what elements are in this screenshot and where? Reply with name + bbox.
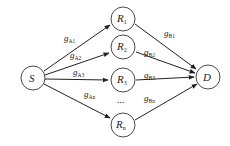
relay-network-diagram: gA1 gA2 gA3 gAn gB1 gB2 gB3 gBn S R1 R2 … [0, 0, 230, 146]
node-relay-1: R1 [111, 7, 135, 31]
edge-label-a2: gA2 [70, 50, 81, 61]
node-source: S [21, 66, 45, 90]
edge-label-b3: gB3 [144, 70, 155, 81]
node-destination: D [196, 65, 220, 89]
edge-label-a1: gA1 [64, 33, 75, 44]
edge-label-b2: gB2 [144, 47, 155, 58]
node-relay-3: R3 [111, 68, 135, 92]
relay-ellipsis: ... [117, 94, 125, 105]
node-relay-n: Rn [111, 113, 135, 137]
node-source-label: S [29, 72, 35, 84]
edge-label-a3: gA3 [73, 67, 84, 78]
edge-s-rn [44, 84, 110, 118]
edge-label-an: gAn [84, 89, 95, 100]
node-relay-2: R2 [111, 35, 135, 59]
edge-s-r3 [45, 79, 108, 80]
edge-label-bn: gBn [144, 93, 155, 104]
edge-label-b1: gB1 [164, 28, 175, 39]
node-destination-label: D [202, 71, 211, 83]
